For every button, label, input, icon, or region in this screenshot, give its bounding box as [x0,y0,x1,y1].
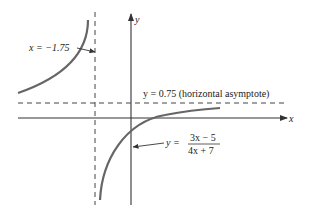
function-numerator: 3x − 5 [190,132,216,143]
x-axis-label: x [288,113,294,124]
function-lhs: y = [165,137,180,148]
left-branch-curve [18,20,88,93]
vertical-asymptote-label: x = −1.75 [28,42,69,53]
function-pointer [133,143,164,147]
rational-function-graph: x y x = −1.75 y = 0.75 (horizontal asymp… [0,0,312,211]
y-axis-label: y [134,14,140,25]
horizontal-asymptote-label: y = 0.75 (horizontal asymptote) [143,88,269,100]
function-denominator: 4x + 7 [188,145,214,156]
